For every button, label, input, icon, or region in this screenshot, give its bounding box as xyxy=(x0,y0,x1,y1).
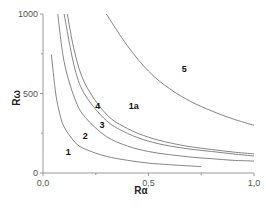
y-tick-label: 500 xyxy=(23,89,38,99)
phase-diagram-chart: 0,00,51,0 05001000 12341a5 Rα Rω xyxy=(0,0,266,208)
x-tick-label: 0,0 xyxy=(37,178,50,188)
region-label: 1a xyxy=(129,101,140,111)
boundary-3-curve xyxy=(64,14,254,156)
boundary-1-curve xyxy=(51,55,201,167)
x-axis-label: Rα xyxy=(134,185,148,196)
region-label: 3 xyxy=(100,120,105,130)
y-tick-label: 0 xyxy=(33,168,38,178)
region-label: 4 xyxy=(95,101,100,111)
region-label: 2 xyxy=(83,131,88,141)
region-label: 5 xyxy=(182,64,187,74)
boundary-curves xyxy=(51,14,254,167)
region-labels: 12341a5 xyxy=(66,64,187,157)
region-label: 1 xyxy=(66,147,71,157)
axes: 0,00,51,0 05001000 xyxy=(18,9,260,188)
x-tick-label: 1,0 xyxy=(248,178,261,188)
y-tick-label: 1000 xyxy=(18,9,38,19)
y-axis-label: Rω xyxy=(11,90,22,106)
boundary-4-curve xyxy=(67,14,254,154)
x-ticks: 0,00,51,0 xyxy=(37,173,261,188)
